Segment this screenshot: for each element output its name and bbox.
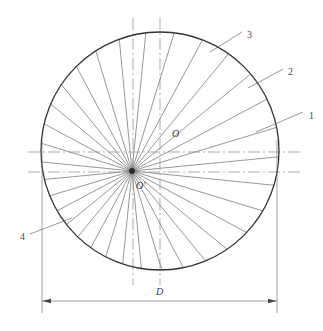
horizontal-centerline-group	[28, 152, 300, 172]
callout-label-2: 2	[288, 66, 293, 77]
callout-label-3: 3	[247, 29, 252, 40]
technical-drawing-svg	[0, 0, 323, 331]
drawing-canvas: 1 2 3 4 O O' D	[0, 0, 323, 331]
center-label-o-prime: O'	[136, 180, 145, 191]
callout-label-1: 1	[309, 110, 314, 121]
diameter-label: D	[156, 286, 163, 297]
center-label-o: O	[172, 128, 179, 139]
fan-origin-point	[129, 168, 135, 174]
callout-label-4: 4	[20, 231, 25, 242]
